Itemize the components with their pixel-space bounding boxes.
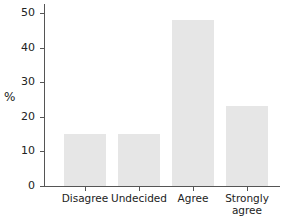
x-tick <box>139 187 140 191</box>
x-tick-label: Stronglyagree <box>212 192 282 216</box>
x-tick <box>85 187 86 191</box>
y-axis-line <box>44 4 45 187</box>
bar-undecided <box>118 134 160 186</box>
y-axis-label: % <box>4 90 15 104</box>
y-tick-label: 20 <box>5 111 35 123</box>
x-axis-line <box>40 186 280 187</box>
bar-strongly-agree <box>226 106 268 186</box>
bar-disagree <box>64 134 106 186</box>
y-tick-label: 50 <box>5 7 35 19</box>
y-tick <box>40 82 45 83</box>
x-tick <box>193 187 194 191</box>
y-tick-label: 40 <box>5 42 35 54</box>
y-tick <box>40 48 45 49</box>
bar-agree <box>172 20 214 186</box>
y-tick <box>40 117 45 118</box>
y-tick <box>40 186 45 187</box>
y-tick-label: 0 <box>5 180 35 192</box>
y-tick <box>40 13 45 14</box>
y-tick-label: 30 <box>5 76 35 88</box>
x-tick <box>247 187 248 191</box>
y-tick-label: 10 <box>5 145 35 157</box>
y-tick <box>40 151 45 152</box>
bar-chart: % 01020304050 DisagreeUndecidedAgreeStro… <box>0 0 289 223</box>
